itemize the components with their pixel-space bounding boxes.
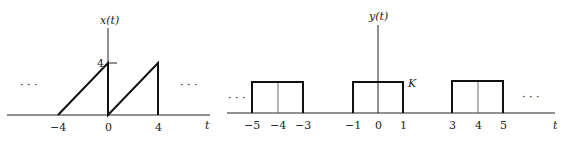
xlabel-t: t: [205, 119, 210, 132]
xtick-label: −1: [345, 119, 361, 132]
xtick-label: −4: [270, 119, 286, 132]
ylabel-x: x(t): [100, 14, 119, 27]
xtick-label: −5: [244, 119, 260, 132]
xtick-label: 0: [375, 119, 382, 132]
ellipsis-right: · · ·: [522, 91, 539, 104]
pulse: [252, 82, 303, 113]
signal-diagram: x(t) 4 −4 0 4 t · · · · · · y(t) K −5 −4…: [0, 0, 570, 141]
ellipsis-left: · · ·: [228, 92, 245, 105]
xtick-label: −3: [295, 119, 311, 132]
plot-x-sawtooth: x(t) 4 −4 0 4 t · · · · · ·: [7, 14, 210, 134]
amplitude-label: K: [407, 77, 417, 90]
xtick-label: 4: [155, 121, 162, 134]
ytick-4-label: 4: [97, 57, 104, 70]
ellipsis-left: · · ·: [20, 79, 37, 92]
ellipsis-right: · · ·: [180, 79, 197, 92]
xtick-label: 5: [500, 119, 507, 132]
xtick-label: 0: [105, 121, 112, 134]
pulse: [452, 81, 503, 113]
ylabel-y: y(t): [368, 10, 388, 23]
xtick-label: −4: [50, 121, 66, 134]
sawtooth-waveform: [58, 63, 158, 115]
xlabel-t: t: [553, 119, 558, 132]
xtick-label: 1: [400, 119, 407, 132]
plot-y-pulse-train: y(t) K −5 −4 −3 −1 0 1 3 4 5 t · · · · ·…: [227, 10, 558, 132]
xtick-label: 4: [475, 119, 482, 132]
xtick-label: 3: [449, 119, 456, 132]
